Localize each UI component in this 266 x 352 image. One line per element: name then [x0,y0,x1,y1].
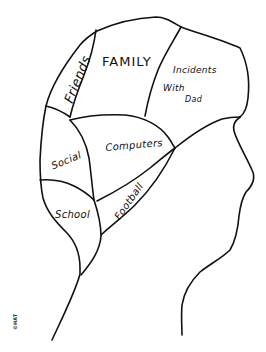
head-outline-drawing [0,0,266,352]
head-diagram: Friends FAMILY Incidents With Dad Social… [0,0,266,352]
region-label-family: FAMILY [102,55,152,68]
social-school-divider-line [40,180,94,200]
region-label-incidents-with: With [163,84,185,93]
region-label-incidents: Incidents [173,66,217,75]
incidents-bottom-line [175,117,240,148]
region-label-school: School [55,210,90,220]
copyright-mark: ©HAT [12,314,18,330]
face-profile-line [182,117,254,335]
region-label-incidents-dad: Dad [185,96,202,104]
friends-bottom-line [46,106,70,117]
back-of-head-line [40,106,80,340]
